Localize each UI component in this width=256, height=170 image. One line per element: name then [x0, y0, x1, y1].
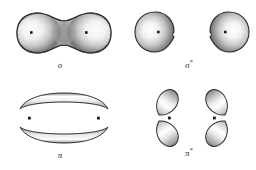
panel-sigma-bonding	[0, 4, 128, 60]
nucleus-right	[85, 31, 88, 34]
panel-pi-bonding	[0, 90, 128, 146]
sigma-antibonding-orbital	[128, 4, 256, 60]
molecular-orbital-diagram: σ	[0, 0, 256, 170]
nucleus-right	[213, 117, 216, 120]
nucleus-right	[97, 117, 100, 120]
sigma-star-lobe-right	[210, 12, 249, 52]
pi-bonding-orbital	[0, 90, 128, 146]
label-sigma-symbol: σ	[58, 60, 62, 70]
pi-star-lobe-upper-right	[203, 88, 231, 116]
label-sigma: σ	[0, 58, 120, 70]
label-sigma-star: σ*	[128, 58, 250, 70]
label-pi-star-mark: *	[190, 146, 194, 154]
sigma-star-lobe-left	[135, 12, 174, 52]
nucleus-left	[157, 31, 160, 34]
label-sigma-star-mark: *	[189, 58, 193, 66]
pi-lobe-bottom	[20, 127, 108, 143]
label-pi-star: π*	[128, 146, 250, 158]
pi-antibonding-orbital	[128, 88, 256, 148]
pi-star-lobe-upper-left	[153, 88, 181, 116]
nucleus-left	[30, 31, 33, 34]
nucleus-left	[168, 117, 171, 120]
panel-sigma-antibonding	[128, 4, 256, 60]
pi-star-lobe-lower-right	[203, 120, 231, 148]
panel-pi-antibonding	[128, 88, 256, 148]
nucleus-right	[224, 31, 227, 34]
label-pi-symbol: π	[58, 150, 63, 160]
nucleus-left	[28, 117, 31, 120]
pi-star-lobe-lower-left	[153, 120, 181, 148]
label-pi: π	[0, 148, 120, 160]
sigma-bonding-orbital	[0, 4, 128, 60]
pi-lobe-top	[20, 93, 108, 109]
